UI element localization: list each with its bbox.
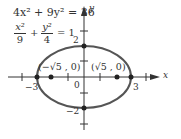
- frac-x-denominator: 9: [14, 34, 26, 45]
- origin-label: 0: [74, 80, 80, 90]
- focus-right-label: (√5 , 0): [91, 61, 126, 72]
- tick-label-x-neg3: −3: [25, 82, 38, 92]
- frac-x-numerator: x²: [14, 21, 26, 32]
- focus-left-label: (−√5 , 0): [38, 61, 81, 72]
- tick-label-y-neg2: −2: [66, 106, 79, 116]
- x-axis-label: x: [163, 70, 168, 80]
- equation-normalized: x² 9 + y² 4 = 1: [14, 21, 76, 47]
- tick-label-x-pos3: 3: [133, 82, 139, 92]
- y-axis-label: y: [89, 3, 94, 13]
- vertex-left: [35, 75, 40, 80]
- focus-right: [115, 75, 120, 80]
- frac-y-denominator: 4: [41, 34, 53, 45]
- covertex-bottom: [82, 106, 87, 111]
- focus-left: [49, 75, 54, 80]
- x-axis-arrow-icon: [150, 74, 160, 80]
- plus-sign: +: [30, 27, 38, 38]
- covertex-top: [82, 44, 87, 49]
- equation-standard: 4x² + 9y² = 36: [13, 6, 95, 19]
- frac-y-numerator: y²: [41, 21, 53, 32]
- tick-label-y-pos2: 2: [73, 35, 79, 45]
- vertex-right: [129, 75, 134, 80]
